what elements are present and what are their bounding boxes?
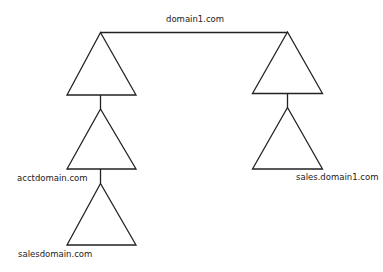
- diagram-graphics: [0, 0, 383, 272]
- label-sales-domain1: sales.domain1.com: [296, 173, 378, 182]
- label-domain1: domain1.com: [166, 15, 224, 24]
- domain-diagram: domain1.com acctdomain.com salesdomain.c…: [0, 0, 383, 272]
- domain-tree-salesdomain[interactable]: [67, 184, 136, 246]
- domain-tree-top-right[interactable]: [253, 32, 323, 94]
- label-acctdomain: acctdomain.com: [17, 174, 88, 183]
- domain-tree-top-left[interactable]: [67, 33, 136, 96]
- domain-tree-sales-domain1[interactable]: [253, 108, 323, 170]
- domain-tree-acctdomain[interactable]: [67, 109, 136, 169]
- label-salesdomain: salesdomain.com: [18, 250, 92, 259]
